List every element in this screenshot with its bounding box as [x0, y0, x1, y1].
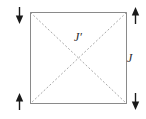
figure-canvas	[0, 0, 146, 119]
arrow-bottom-right-down-icon	[132, 93, 139, 110]
arrow-top-right-up-icon	[132, 7, 139, 24]
arrow-bottom-left-up-icon	[16, 93, 23, 110]
lattice-coupling-figure: J′ J	[0, 0, 146, 119]
label-j-prime: J′	[74, 31, 82, 43]
label-j: J	[127, 52, 132, 64]
arrow-top-left-down-icon	[16, 7, 23, 24]
